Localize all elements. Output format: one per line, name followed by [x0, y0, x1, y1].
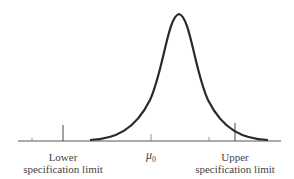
usl-label: Upper specification limit — [185, 151, 285, 175]
lsl-label: Lower specification limit — [13, 151, 113, 175]
mu0-label: μ0 — [141, 149, 161, 166]
distribution-curve — [90, 14, 268, 140]
